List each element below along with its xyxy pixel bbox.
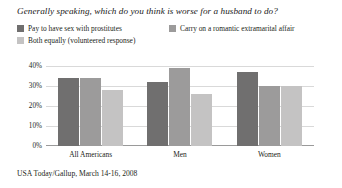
legend-item-affair: Carry on a romantic extramarital affair — [169, 24, 295, 33]
bar — [102, 90, 123, 146]
source-note: USA Today/Gallup, March 14-16, 2008 — [17, 169, 137, 178]
x-tick-label: Men — [135, 150, 224, 159]
bar — [80, 78, 101, 146]
x-tick-label: Women — [225, 150, 314, 159]
bar-set — [46, 66, 135, 146]
chart-figure: Generally speaking, which do you think i… — [0, 0, 342, 188]
bar — [237, 72, 258, 146]
bar — [191, 94, 212, 146]
legend-swatch-both-equally — [17, 37, 24, 44]
legend-swatch-prostitutes — [17, 25, 24, 32]
bar — [58, 78, 79, 146]
y-tick-label: 30% — [29, 82, 42, 90]
legend-item-both-equally: Both equally (volunteered response) — [17, 36, 169, 45]
y-axis-labels: 0%10%20%30%40% — [14, 60, 42, 152]
bar — [169, 68, 190, 146]
bar — [147, 82, 168, 146]
legend-item-prostitutes: Pay to have sex with prostitutes — [17, 24, 169, 33]
bar-group — [46, 66, 135, 146]
bar — [259, 86, 280, 146]
bar-set — [225, 66, 314, 146]
legend-row-1: Pay to have sex with prostitutes Carry o… — [17, 24, 327, 36]
legend-row-2: Both equally (volunteered response) — [17, 36, 327, 48]
bar-group — [135, 66, 224, 146]
y-tick-label: 0% — [32, 142, 42, 150]
chart-title: Generally speaking, which do you think i… — [17, 6, 327, 17]
chart-legend: Pay to have sex with prostitutes Carry o… — [17, 24, 327, 48]
bar-set — [135, 66, 224, 146]
y-tick-label: 10% — [29, 122, 42, 130]
x-tick-label: All Americans — [46, 150, 135, 159]
bar-group — [225, 66, 314, 146]
y-tick-label: 40% — [29, 62, 42, 70]
y-tick-label: 20% — [29, 102, 42, 110]
legend-label-affair: Carry on a romantic extramarital affair — [180, 24, 295, 33]
legend-label-prostitutes: Pay to have sex with prostitutes — [28, 24, 122, 33]
bar — [281, 86, 302, 146]
bar-groups — [46, 66, 314, 146]
legend-swatch-affair — [169, 25, 176, 32]
x-axis-labels: All AmericansMenWomen — [46, 150, 314, 159]
legend-label-both-equally: Both equally (volunteered response) — [28, 36, 135, 45]
